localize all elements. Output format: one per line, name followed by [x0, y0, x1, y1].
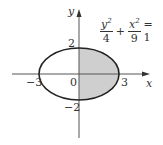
equals-one: = 1: [144, 18, 163, 44]
tick-x-neg3: −3: [26, 77, 42, 88]
tick-y-2: 2: [68, 38, 75, 49]
tick-y-neg2: −2: [64, 102, 80, 113]
y-axis-label: y: [68, 6, 74, 17]
fraction-y2-over-4: y2 4: [100, 18, 113, 44]
ellipse-equation: y2 4 + x2 9 = 1: [100, 18, 163, 44]
x-axis-label: x: [146, 78, 152, 89]
origin-label: 0: [70, 77, 77, 88]
x-axis-arrow-icon: [142, 72, 150, 77]
tick-x-3: 3: [121, 77, 128, 88]
plus-sign: +: [116, 25, 125, 38]
fraction-x2-over-9: x2 9: [128, 18, 141, 44]
y-axis-arrow-icon: [77, 9, 82, 17]
